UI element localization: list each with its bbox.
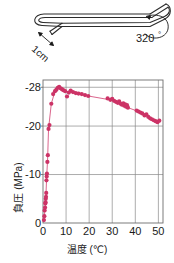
negative-pressure-vs-temperature-chart: 負圧 (MPa) -28 -20 -10 0 0 10 20 30 40 50 …	[0, 72, 174, 263]
tube-outline	[35, 4, 171, 35]
angle-label-320: 320	[136, 32, 154, 44]
x-axis-title: 温度 (℃)	[0, 241, 174, 256]
dimension-1cm	[39, 33, 54, 46]
dimension-1cm-label: 1cm	[30, 43, 51, 64]
schematic-svg: 1cm 320 °	[0, 0, 174, 72]
capillary-tube-schematic: 1cm 320 °	[0, 0, 174, 72]
angle-degree-symbol: °	[158, 30, 161, 39]
plot-area	[0, 72, 174, 263]
